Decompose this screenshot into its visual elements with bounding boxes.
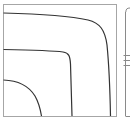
outer-contour [4,13,111,116]
adjacent-panel [124,8,131,117]
contour-figure [0,0,130,126]
contour-plot-svg [0,0,130,126]
middle-contour [4,50,73,117]
inner-contour [4,80,42,116]
plot-frame [4,5,117,117]
adjacent-panel-top-curve [126,8,130,12]
adjacent-panel-ticks [124,56,131,66]
